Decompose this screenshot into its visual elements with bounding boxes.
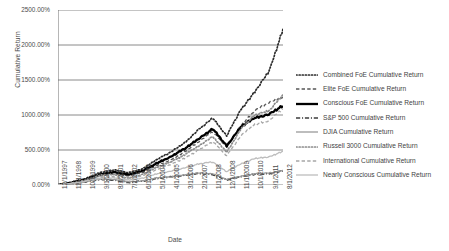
x-tick-label: 8/1/2012 [286, 164, 293, 189]
x-tick-label: 11/1/1998 [75, 161, 82, 189]
x-tick-label: 1/1/2008 [215, 164, 222, 189]
x-tick-label: 12/1/1997 [61, 161, 68, 189]
legend-item[interactable]: DJIA Cumulative Return [296, 125, 448, 139]
legend-line-swatch-icon [296, 71, 318, 79]
legend-line-swatch-icon [296, 171, 318, 179]
x-axis-title: Date [60, 236, 290, 243]
legend-item[interactable]: International Cumulative Return [296, 154, 448, 168]
x-tick-label: 7/1/2002 [131, 164, 138, 189]
x-tick-label: 12/1/2008 [229, 161, 236, 189]
legend-item[interactable]: Conscious FoE Cumulative Return [296, 97, 448, 111]
x-tick-label: 9/1/2000 [103, 164, 110, 189]
x-tick-label: 5/1/2004 [159, 164, 166, 189]
legend-item-label: S&P 500 Cumulative Return [323, 115, 405, 122]
legend-item[interactable]: Combined FoE Cumulative Return [296, 68, 448, 82]
legend-item-label: Conscious FoE Cumulative Return [323, 100, 424, 107]
x-tick-label: 10/1/2010 [257, 161, 264, 189]
x-tick-label: 4/1/2005 [173, 164, 180, 189]
legend-line-swatch-icon [296, 157, 318, 165]
cumulative-return-chart: Cumulative Return 2500.00%2000.00%1500.0… [0, 0, 449, 251]
legend-item-label: Combined FoE Cumulative Return [323, 72, 423, 79]
x-tick-label: 9/1/2011 [272, 165, 279, 189]
legend-item-label: Nearly Conscious Cumulative Return [323, 172, 431, 179]
legend-item[interactable]: Nearly Conscious Cumulative Return [296, 168, 448, 182]
legend-item[interactable]: Elite FoE Cumulative Return [296, 82, 448, 96]
x-tick-label: 6/1/2003 [145, 164, 152, 189]
legend-item[interactable]: S&P 500 Cumulative Return [296, 111, 448, 125]
chart-legend: Combined FoE Cumulative ReturnElite FoE … [296, 68, 448, 182]
legend-item[interactable]: Russell 3000 Cumulative Return [296, 139, 448, 153]
legend-line-swatch-icon [296, 128, 318, 136]
x-tick-label: 2/1/2007 [201, 164, 208, 189]
x-tick-label: 11/1/2009 [243, 161, 250, 189]
x-tick-label: 10/1/1999 [89, 161, 96, 189]
legend-item-label: Elite FoE Cumulative Return [323, 86, 406, 93]
legend-item-label: Russell 3000 Cumulative Return [323, 143, 418, 150]
legend-line-swatch-icon [296, 100, 318, 108]
legend-item-label: DJIA Cumulative Return [323, 129, 393, 136]
x-tick-label: 3/1/2006 [187, 164, 194, 189]
legend-line-swatch-icon [296, 85, 318, 93]
x-tick-label: 8/1/2001 [117, 164, 124, 189]
legend-item-label: International Cumulative Return [323, 158, 416, 165]
legend-line-swatch-icon [296, 143, 318, 151]
legend-line-swatch-icon [296, 114, 318, 122]
